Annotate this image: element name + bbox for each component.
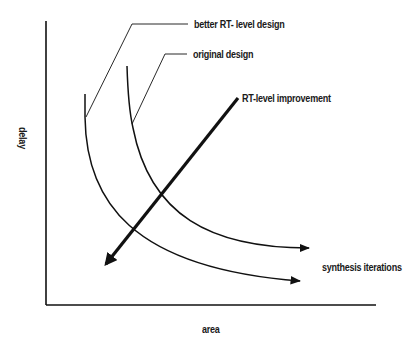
y-axis-label: delay	[17, 127, 29, 149]
rt-level-improvement-label: RT-level improvement	[242, 92, 331, 104]
better-design-leader	[86, 24, 188, 117]
original-design-label: original design	[193, 48, 253, 60]
rt-level-improvement-arrow	[106, 98, 238, 264]
better-design-label: better RT- level design	[194, 18, 284, 30]
better-design-curve	[85, 94, 300, 281]
x-axis-label: area	[202, 323, 220, 335]
original-design-leader	[132, 54, 187, 124]
synthesis-iterations-label: synthesis iterations	[322, 261, 402, 273]
